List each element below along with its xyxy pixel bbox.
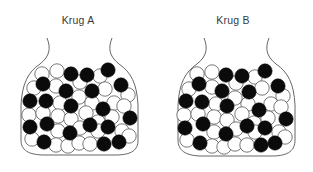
white-ball xyxy=(177,108,191,122)
white-ball xyxy=(205,65,219,79)
black-ball xyxy=(39,94,53,108)
black-ball xyxy=(235,69,249,83)
white-ball xyxy=(255,81,269,95)
jar-a-balls xyxy=(22,63,137,153)
jar-b-balls xyxy=(177,64,293,154)
black-ball xyxy=(215,84,229,98)
black-ball xyxy=(240,119,254,133)
black-ball xyxy=(123,111,137,125)
black-ball xyxy=(85,84,99,98)
black-ball xyxy=(80,68,94,82)
black-ball xyxy=(59,84,73,98)
black-ball xyxy=(63,126,77,140)
black-ball xyxy=(252,103,266,117)
black-ball xyxy=(195,95,209,109)
jar-a: Krug A xyxy=(0,0,156,172)
black-ball xyxy=(242,85,256,99)
jar-b-drawing xyxy=(155,0,311,172)
black-ball xyxy=(258,121,272,135)
black-ball xyxy=(112,135,126,149)
black-ball xyxy=(64,67,78,81)
black-ball xyxy=(271,79,285,93)
black-ball xyxy=(97,137,111,151)
black-ball xyxy=(279,112,293,126)
black-ball xyxy=(268,136,282,150)
black-ball xyxy=(101,120,115,134)
black-ball xyxy=(40,117,54,131)
black-ball xyxy=(219,127,233,141)
black-ball xyxy=(220,99,234,113)
white-ball xyxy=(83,137,97,151)
black-ball xyxy=(114,78,128,92)
black-ball xyxy=(178,121,192,135)
black-ball xyxy=(23,120,37,134)
white-ball xyxy=(98,82,112,96)
black-ball xyxy=(179,94,193,108)
white-ball xyxy=(240,138,254,152)
black-ball xyxy=(96,102,110,116)
black-ball xyxy=(37,135,51,149)
black-ball xyxy=(192,77,206,91)
black-ball xyxy=(258,64,272,78)
black-ball xyxy=(23,94,37,108)
black-ball xyxy=(64,99,78,113)
black-ball xyxy=(101,63,115,77)
black-ball xyxy=(196,117,210,131)
jar-b: Krug B xyxy=(155,0,311,172)
jar-a-drawing xyxy=(0,0,156,172)
black-ball xyxy=(83,118,97,132)
black-ball xyxy=(219,68,233,82)
black-ball xyxy=(193,136,207,150)
black-ball xyxy=(254,138,268,152)
black-ball xyxy=(36,77,50,91)
white-ball xyxy=(50,64,64,78)
